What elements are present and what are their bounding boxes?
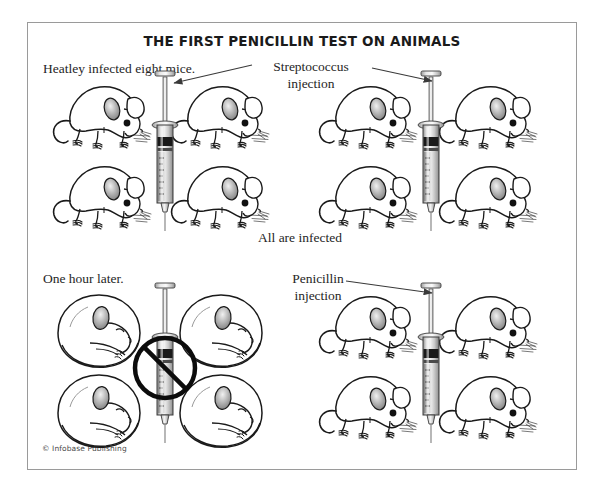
figure-page: THE FIRST PENICILLIN TEST ON ANIMALS Hea… [0,0,600,497]
mouse-standing-icon [172,87,269,149]
syringe-bottom-right-icon [418,283,444,443]
mouse-standing-icon [320,377,417,439]
syringe-top-right-icon [418,71,444,231]
caption-penicillin-injection: Penicillin injection [276,271,360,305]
caption-streptococcus-line1: Streptococcus [273,59,349,74]
bottom-left-mouse-group [58,295,262,447]
page-title: THE FIRST PENICILLIN TEST ON ANIMALS [28,33,576,49]
caption-one-hour-later: One hour later. [43,271,124,287]
mouse-curled-icon [180,295,262,367]
caption-heatley: Heatley infected eight mice. [43,61,195,77]
top-left-mouse-group [54,87,269,229]
figure-frame: THE FIRST PENICILLIN TEST ON ANIMALS Hea… [27,22,577,470]
mouse-standing-icon [440,167,537,229]
no-symbol-icon [135,338,195,398]
mouse-curled-icon [58,295,140,367]
caption-streptococcus-injection: Streptococcus injection [256,59,366,93]
mouse-curled-icon [180,375,262,447]
caption-penicillin-line2: injection [294,288,341,303]
mouse-standing-icon [440,297,537,359]
mouse-standing-icon [320,297,417,359]
mouse-curled-icon [58,375,140,447]
caption-all-are-infected: All are infected [258,230,342,246]
mouse-standing-icon [320,87,417,149]
syringe-bottom-left-icon [152,283,178,443]
mouse-standing-icon [440,377,537,439]
mouse-standing-icon [320,167,417,229]
syringe-top-left-icon [152,71,178,231]
caption-streptococcus-line2: injection [287,76,334,91]
mouse-standing-icon [440,87,537,149]
top-right-mouse-group [320,87,537,229]
mouse-standing-icon [54,167,151,229]
mouse-standing-icon [54,87,151,149]
caption-penicillin-line1: Penicillin [292,271,344,286]
copyright-notice: © Infobase Publishing [42,444,127,453]
arrow-strep-right-icon [372,68,432,81]
mouse-standing-icon [172,167,269,229]
bottom-right-mouse-group [320,297,537,439]
